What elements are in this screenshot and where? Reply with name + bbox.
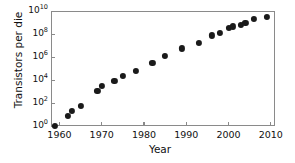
y-tick-label: 108 — [2, 29, 48, 38]
x-tick-mark — [59, 122, 60, 126]
x-tick-label: 1970 — [90, 129, 114, 140]
y-tick-mark — [51, 11, 55, 12]
y-axis-ticks: 1001021041061081010 — [0, 0, 48, 163]
x-tick-mark — [143, 122, 144, 126]
x-tick-mark — [101, 122, 102, 126]
x-tick-label: 1980 — [132, 129, 156, 140]
y-tick-label: 102 — [2, 98, 48, 107]
y-tick-label: 106 — [2, 52, 48, 61]
y-tick-label: 100 — [2, 121, 48, 130]
plot-area — [51, 11, 275, 126]
x-tick-label: 1990 — [174, 129, 198, 140]
y-tick-label: 104 — [2, 75, 48, 84]
x-tick-label: 2010 — [259, 129, 283, 140]
y-tick-mark — [51, 80, 55, 81]
x-tick-mark — [186, 122, 187, 126]
y-tick-mark — [51, 57, 55, 58]
x-axis-label: Year — [44, 143, 276, 155]
x-tick-mark — [270, 122, 271, 126]
y-tick-mark — [51, 34, 55, 35]
y-tick-label: 1010 — [2, 6, 48, 15]
x-tick-mark — [228, 122, 229, 126]
x-tick-label: 2000 — [216, 129, 240, 140]
x-tick-label: 1960 — [47, 129, 71, 140]
moores-law-chart: Transistors per die 1001021041061081010 … — [0, 0, 295, 163]
y-tick-mark — [51, 103, 55, 104]
